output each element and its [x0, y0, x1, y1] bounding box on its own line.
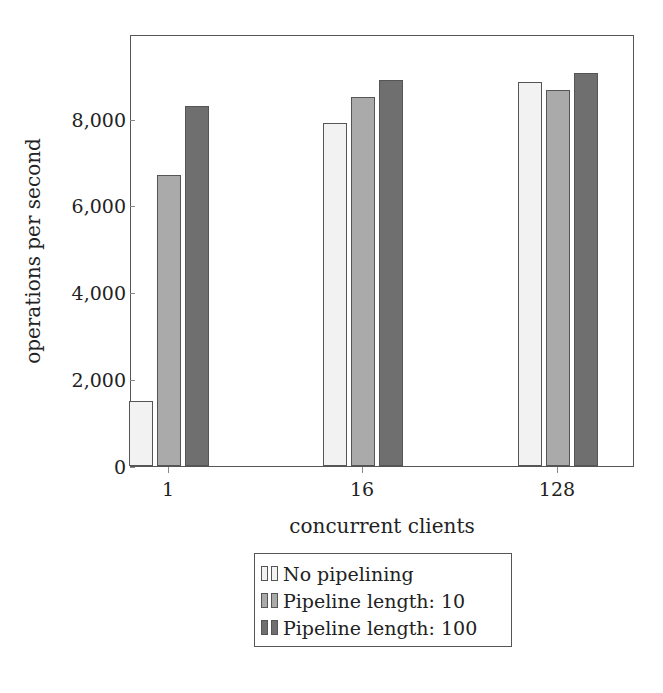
bar	[574, 73, 598, 466]
legend: No pipelining Pipeline length: 10 Pipeli…	[254, 553, 512, 647]
x-axis-label: concurrent clients	[289, 514, 474, 538]
x-tick-label: 16	[350, 478, 374, 500]
bar	[379, 80, 403, 466]
bar	[323, 123, 347, 466]
y-tick-label: 2,000	[72, 369, 126, 391]
x-tick	[362, 467, 363, 473]
legend-swatch	[271, 593, 278, 608]
legend-swatch	[261, 620, 268, 635]
y-tick-label: 6,000	[72, 195, 126, 217]
bar	[518, 82, 542, 466]
legend-swatch	[271, 620, 278, 635]
plot-area	[130, 35, 634, 467]
bar	[185, 106, 209, 466]
x-tick	[557, 467, 558, 473]
bar	[351, 97, 375, 466]
legend-item-no-pipelining: No pipelining	[261, 560, 505, 587]
legend-swatch	[261, 566, 268, 581]
bar	[129, 401, 153, 466]
legend-label: No pipelining	[283, 563, 414, 585]
x-tick-label: 128	[539, 478, 575, 500]
y-tick	[130, 206, 135, 207]
legend-swatch	[261, 593, 268, 608]
legend-item-pipeline-10: Pipeline length: 10	[261, 587, 505, 614]
x-tick-label: 1	[162, 478, 174, 500]
y-tick	[130, 380, 135, 381]
y-tick	[130, 293, 135, 294]
y-tick-label: 8,000	[72, 109, 126, 131]
y-tick-label: 4,000	[72, 282, 126, 304]
y-tick-label: 0	[114, 456, 126, 478]
legend-label: Pipeline length: 10	[283, 590, 465, 612]
bar	[546, 90, 570, 466]
x-tick	[168, 467, 169, 473]
bar	[157, 175, 181, 466]
y-tick	[130, 120, 135, 121]
legend-item-pipeline-100: Pipeline length: 100	[261, 614, 505, 641]
y-tick	[130, 467, 135, 468]
legend-swatch	[271, 566, 278, 581]
legend-label: Pipeline length: 100	[283, 617, 477, 639]
y-axis-label: operations per second	[21, 138, 45, 364]
